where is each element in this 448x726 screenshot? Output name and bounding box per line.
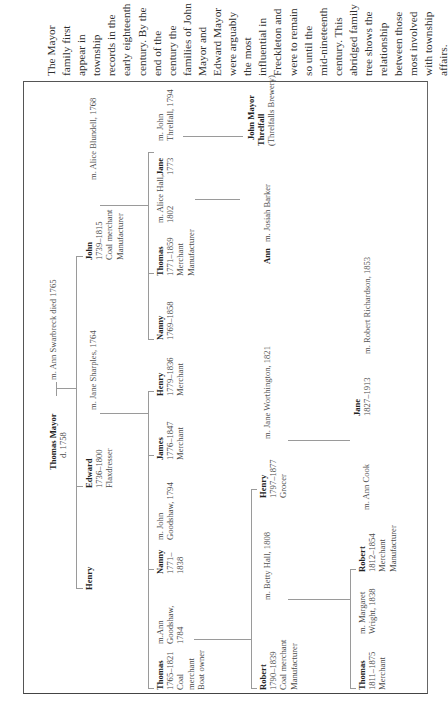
spouse-line: m. Alice Hall, [155, 175, 165, 223]
person-name: John Mayor [246, 75, 256, 146]
connector-line [148, 152, 154, 153]
person-thomas-1765: Thomas 1765–1821 Coal merchant Boat owne… [155, 650, 206, 690]
spouse-alice-blundell: m. Alice Blundell, 1768 [88, 98, 98, 180]
spouse-line: Wright, 1838 [367, 589, 377, 634]
person-dates: 1773 [165, 158, 175, 175]
caption-line: family first [59, 2, 74, 76]
connector-line [148, 569, 154, 570]
caption-line: mid-nineteenth [316, 2, 331, 76]
person-occupation: Merchant [377, 525, 387, 572]
spouse-ann-swarbreck: m. Ann Swarbreck died 1765 [48, 280, 58, 380]
person-nanny-1771: Nanny 1771– 1838 [155, 550, 186, 574]
connector-line [350, 688, 356, 689]
caption-line: appear in [74, 2, 89, 76]
caption-line: relationship [376, 2, 391, 76]
connector-line [148, 152, 149, 340]
person-name: Thomas [155, 650, 165, 690]
caption-line: were arguably [225, 2, 240, 76]
spouse-betty-hall: m. Betty Hall, 1808 [262, 532, 272, 600]
connector-line [195, 199, 240, 200]
connector-line [288, 440, 350, 441]
caption-line: township [89, 2, 104, 76]
person-thomas-mayor: Thomas Mayor d. 1758 [48, 413, 68, 470]
spouse-jane-sharples: m. Jane Sharples, 1764 [88, 331, 98, 410]
rotated-page: The Mayor family first appear in townshi… [0, 0, 448, 726]
person-note: (Threlfalls Brewery) [266, 75, 276, 146]
spouse-alice-hall: m. Alice Hall, 1802 [155, 175, 175, 223]
connector-line [350, 569, 351, 689]
person-jane-1773: Jane 1773 [155, 158, 175, 175]
connector-line [148, 391, 149, 689]
connector-line [251, 688, 257, 689]
spouse-line: m. Margaret [357, 589, 367, 634]
caption-line: end of the [150, 2, 165, 76]
caption-line: records in the [104, 2, 119, 76]
person-dates: 1827–1913 [362, 377, 372, 416]
person-dates: 1838 [175, 550, 185, 574]
person-ann: Ann m. Josiah Barker [262, 184, 272, 264]
person-dates: 1739–1815 [94, 210, 104, 260]
person-name: Thomas [357, 652, 367, 690]
caption-line: tree shows the [361, 2, 376, 76]
person-robert-1790: Robert 1790–1839 Coal merchant Manufactu… [258, 640, 299, 690]
person-name: Nanny [155, 301, 165, 340]
person-occupation: Manufacturer [388, 525, 398, 572]
person-thomas-1811: Thomas 1811–1875 Merchant [357, 652, 388, 690]
spouse-line: m. John [155, 89, 165, 141]
person-occupation: Merchant [175, 421, 185, 460]
connector-line [76, 256, 77, 589]
caption-line: century. This [331, 2, 346, 76]
person-dates: 1779–1836 [165, 357, 175, 396]
person-occupation: Merchant [377, 652, 387, 690]
person-edward: Edward 1736–1800 Flaxdresser [84, 448, 115, 488]
person-name: Henry [84, 567, 94, 590]
connector-line [56, 388, 76, 389]
caption-line: most involved [406, 2, 421, 76]
spouse-line: m. John [155, 482, 165, 540]
person-dates: 1736–1800 [94, 448, 104, 488]
spouse-line: 1784 [175, 606, 185, 644]
person-dates: d. 1758 [58, 413, 68, 470]
connector-line [148, 391, 154, 392]
connector-line [56, 382, 57, 396]
person-nanny-1769: Nanny 1769–1858 [155, 301, 175, 340]
person-dates: 1790–1839 [268, 640, 278, 690]
connector-line [76, 588, 83, 589]
caption-line: families of John [180, 2, 195, 76]
connector-line [100, 413, 148, 414]
person-john: John 1739–1815 Coal merchant Manufacture… [84, 210, 125, 260]
caption-line: between those [391, 2, 406, 76]
person-dates: 1812–1854 [367, 525, 377, 572]
spouse-robert-richardson: m. Robert Richardson, 1853 [362, 257, 372, 354]
connector-line [148, 339, 154, 340]
spouse-line: 1802 [165, 175, 175, 223]
person-henry: Henry [84, 567, 94, 590]
caption-line: early eighteenth [119, 2, 134, 76]
person-occupation: Coal [175, 650, 185, 690]
person-name: Robert [357, 525, 367, 572]
caption-line: with township [421, 2, 436, 76]
connector-line [288, 599, 350, 600]
person-name: Jane [155, 158, 165, 175]
connector-line [350, 569, 356, 570]
spouse-line: m.Ann [155, 606, 165, 644]
person-dates: 1797–1877 [268, 459, 278, 498]
spouse-jane-worthington: m. Jane Worthington, 1821 [262, 346, 272, 439]
person-occupation: Coal merchant [104, 210, 114, 260]
connector-line [251, 489, 257, 490]
caption-line: so until the [301, 2, 316, 76]
spouse-margaret-wright: m. Margaret Wright, 1838 [357, 589, 377, 634]
caption-line: The Mayor [44, 2, 59, 76]
person-john-mayor-threlfall: John Mayor Threlfall (Threlfalls Brewery… [246, 75, 277, 146]
caption-line: influential in [255, 2, 270, 76]
person-name: Henry [155, 357, 165, 396]
spouse-ann-cook: m. Ann Cook [361, 464, 371, 510]
caption-line: affairs. [436, 2, 448, 76]
spouse-line: Threlfall, 1794 [165, 89, 175, 141]
person-dates: 1769–1858 [165, 301, 175, 340]
caption-line: abridged family [346, 2, 361, 76]
spouse-line: Goodshaw, 1794 [165, 482, 175, 540]
person-thomas-1771: Thomas 1771–1859 Merchant Manufacturer [155, 229, 196, 276]
caption-line: Freckleton and [270, 2, 285, 76]
person-name: Ann [262, 248, 272, 264]
